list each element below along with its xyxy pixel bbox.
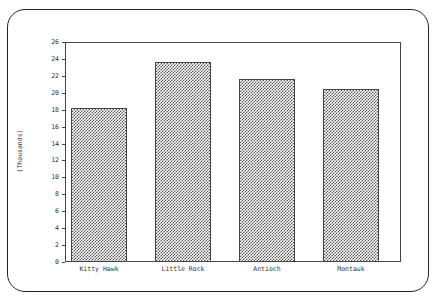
bar-kitty-hawk [71,108,127,262]
y-tick-label: 4 [43,224,59,232]
y-tick-label: 6 [43,207,59,215]
bar-montauk [323,89,379,262]
y-tick-label: 24 [43,55,59,63]
y-tick-label: 14 [43,140,59,148]
y-tick-label: 10 [43,173,59,181]
y-tick-label: 16 [43,123,59,131]
x-tick-label: Kitty Hawk [79,265,118,273]
x-tick-label: Montauk [337,265,364,273]
y-tick-mark [62,262,65,263]
y-tick-label: 18 [43,106,59,114]
y-tick-label: 20 [43,89,59,97]
y-tick-label: 8 [43,190,59,198]
bar-little-rock [155,62,211,262]
y-tick-label: 2 [43,241,59,249]
y-tick-label: 22 [43,72,59,80]
x-tick-label: Antioch [253,265,280,273]
y-tick-label: 12 [43,156,59,164]
x-tick-label: Little Rock [161,265,204,273]
y-axis-label: (Thousands) [16,129,24,172]
bar-antioch [239,79,295,262]
y-tick-label: 0 [43,258,59,266]
y-tick-label: 26 [43,38,59,46]
